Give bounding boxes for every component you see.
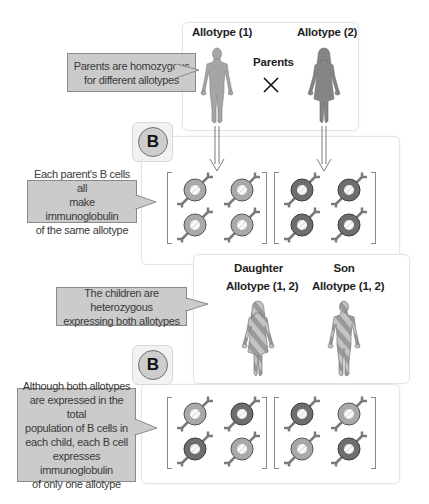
b-cell-allotype-1 [282, 431, 322, 467]
callout-pointer [176, 62, 200, 82]
b-cell-allotype-1 [329, 396, 369, 432]
bracket-left [274, 172, 279, 244]
b-cell-badge-label: B [138, 350, 168, 380]
b-cell-allotype-2 [175, 431, 215, 467]
bracket-right [371, 172, 376, 244]
callout-text: Although both allotypes are expressed in… [22, 379, 131, 491]
b-cell-allotype-2 [329, 172, 369, 208]
b-cell-allotype-2 [222, 396, 262, 432]
callout-text: The children are heterozygous expressing… [61, 286, 182, 328]
callout-children-bcells: Although both allotypes are expressed in… [17, 388, 136, 482]
callout-parent-bcells: Each parent's B cells all make immunoglo… [27, 180, 137, 223]
son-title: Son [314, 262, 374, 274]
daughter-figure-icon [241, 300, 275, 378]
male-figure-icon [200, 47, 234, 125]
down-arrow-icon-right [315, 126, 333, 172]
cross-icon [263, 77, 279, 93]
callout-pointer [135, 418, 159, 438]
father-allotype-label: Allotype (1) [192, 26, 242, 38]
b-cell-allotype-2 [282, 207, 322, 243]
callout-pointer [136, 194, 160, 210]
son-allotype-label: Allotype (1, 2) [312, 280, 377, 292]
b-cell-allotype-1 [175, 396, 215, 432]
daughter-allotype-label: Allotype (1, 2) [226, 280, 291, 292]
callout-pointer [186, 297, 210, 317]
callout-children-heterozygous: The children are heterozygous expressing… [56, 287, 187, 326]
b-cell-allotype-1 [222, 431, 262, 467]
b-cell-badge-bottom: B [132, 345, 173, 385]
b-cell-allotype-2 [282, 172, 322, 208]
b-cell-allotype-2 [329, 207, 369, 243]
bracket-left [167, 397, 172, 469]
down-arrow-icon-left [208, 126, 226, 172]
bracket-left [167, 172, 172, 244]
callout-text: Parents are homozygous for different all… [74, 59, 190, 87]
b-cell-badge-top: B [132, 122, 173, 162]
b-cell-allotype-2 [282, 396, 322, 432]
b-cell-allotype-1 [175, 207, 215, 243]
parents-title: Parents [253, 56, 293, 68]
callout-text: Each parent's B cells all make immunoglo… [32, 167, 132, 237]
bracket-left [274, 397, 279, 469]
b-cell-badge-label: B [138, 127, 168, 157]
mother-allotype-label: Allotype (2) [297, 26, 352, 38]
b-cell-allotype-1 [175, 172, 215, 208]
b-cell-allotype-2 [329, 431, 369, 467]
b-cell-allotype-1 [222, 207, 262, 243]
b-cell-allotype-1 [222, 172, 262, 208]
female-figure-icon [307, 47, 341, 125]
bracket-right [262, 397, 267, 469]
son-figure-icon [327, 300, 361, 378]
bracket-right [371, 397, 376, 469]
daughter-title: Daughter [226, 262, 291, 274]
bracket-right [262, 172, 267, 244]
